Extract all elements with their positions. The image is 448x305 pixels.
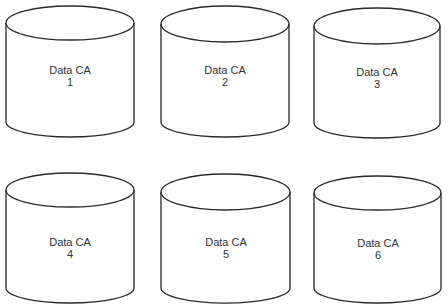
cylinder-4-name: Data CA	[30, 236, 110, 248]
cylinder-3-number: 3	[337, 78, 417, 90]
cylinder-2-label: Data CA 2	[185, 64, 265, 88]
cylinder-3-name: Data CA	[337, 66, 417, 78]
cylinder-6-label: Data CA 6	[338, 237, 418, 261]
cylinder-4-label: Data CA 4	[30, 236, 110, 260]
cylinder-4-number: 4	[30, 248, 110, 260]
cylinder-3-label: Data CA 3	[337, 66, 417, 90]
cylinder-1-number: 1	[30, 76, 110, 88]
cylinder-2-name: Data CA	[185, 64, 265, 76]
cylinder-2-number: 2	[185, 76, 265, 88]
cylinder-5-label: Data CA 5	[186, 236, 266, 260]
cylinder-1-label: Data CA 1	[30, 64, 110, 88]
cylinder-1-name: Data CA	[30, 64, 110, 76]
cylinder-6-name: Data CA	[338, 237, 418, 249]
cylinder-5-number: 5	[186, 248, 266, 260]
cylinder-6-number: 6	[338, 249, 418, 261]
cylinder-5-name: Data CA	[186, 236, 266, 248]
